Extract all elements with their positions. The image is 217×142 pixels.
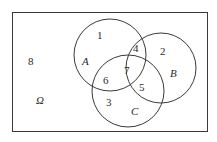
set-b-label: B: [170, 67, 177, 79]
region-6-label: 6: [103, 74, 109, 86]
region-2-label: 2: [160, 45, 166, 57]
universe-rectangle: [13, 13, 208, 132]
region-8-label: 8: [28, 55, 34, 67]
region-3-label: 3: [106, 96, 112, 108]
region-1-label: 1: [97, 29, 103, 41]
region-4-label: 4: [133, 42, 139, 54]
set-c-label: C: [131, 105, 139, 117]
universe-label: Ω: [36, 94, 44, 106]
region-7-label: 7: [124, 64, 130, 76]
set-a-label: A: [81, 55, 89, 67]
region-5-label: 5: [139, 81, 145, 93]
venn-diagram: 1 2 3 4 5 6 7 8 A B C Ω: [0, 0, 217, 142]
